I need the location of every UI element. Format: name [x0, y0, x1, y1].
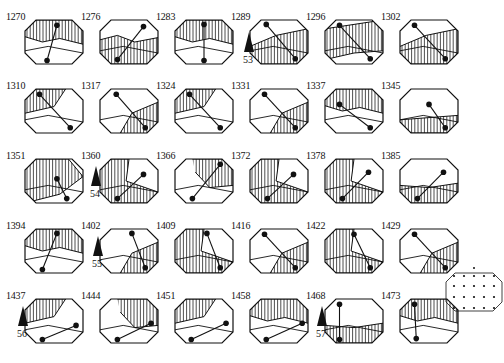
- electrode-grid-legend: [444, 265, 504, 315]
- octagon-map: [324, 158, 384, 204]
- marker-number: 55: [92, 258, 102, 269]
- frame-diagram: 1451: [172, 293, 242, 353]
- octagon-map: [99, 19, 159, 65]
- frame-label: 1289: [231, 12, 250, 22]
- frame-label: 1360: [81, 151, 100, 161]
- frame-label: 1276: [81, 12, 100, 22]
- stimulus-marker: 57: [316, 306, 332, 340]
- frame-label: 1372: [231, 151, 250, 161]
- marker-number: 54: [90, 188, 100, 199]
- frame-label: 1444: [81, 291, 100, 301]
- frame-diagram: 1345: [397, 83, 467, 143]
- stimulus-marker: 56: [17, 306, 33, 340]
- marker-number: 56: [17, 328, 27, 339]
- frame-label: 1317: [81, 81, 100, 91]
- marker-number: 57: [316, 328, 326, 339]
- frame-diagram: 1296: [322, 14, 392, 74]
- frame-diagram: 1385: [397, 153, 467, 213]
- frame-label: 1366: [156, 151, 175, 161]
- frame-diagram: 1302: [397, 14, 467, 74]
- triangle-icon: [244, 32, 254, 52]
- octagon-map: [249, 88, 309, 134]
- frame-diagram: 1444: [97, 293, 167, 353]
- octagon-map: [174, 228, 234, 274]
- octagon-map: [24, 158, 84, 204]
- frame-diagram: 1324: [172, 83, 242, 143]
- frame-label: 1331: [231, 81, 250, 91]
- frame-label: 1402: [81, 221, 100, 231]
- frame-label: 1324: [156, 81, 175, 91]
- frame-diagram: 1372: [247, 153, 317, 213]
- frame-diagram: 1283: [172, 14, 242, 74]
- frame-label: 1394: [6, 221, 25, 231]
- frame-label: 1378: [306, 151, 325, 161]
- octagon-map: [24, 19, 84, 65]
- octagon-map: [24, 228, 84, 274]
- octagon-map: [24, 298, 84, 344]
- frame-diagram: 1378: [322, 153, 392, 213]
- triangle-icon: [18, 306, 28, 326]
- octagon-map: [324, 228, 384, 274]
- frame-label: 1458: [231, 291, 250, 301]
- octagon-map: [324, 88, 384, 134]
- frame-diagram: 1416: [247, 223, 317, 283]
- frame-diagram: 1351: [22, 153, 92, 213]
- triangle-icon: [93, 236, 103, 256]
- frame-label: 1429: [381, 221, 400, 231]
- frame-label: 1409: [156, 221, 175, 231]
- frame-label: 1437: [6, 291, 25, 301]
- stimulus-marker: 54: [90, 166, 106, 200]
- marker-number: 53: [243, 54, 253, 65]
- frame-diagram: 1310: [22, 83, 92, 143]
- frame-diagram: 1394: [22, 223, 92, 283]
- frame-label: 1385: [381, 151, 400, 161]
- octagon-map: [249, 158, 309, 204]
- octagon-map: [324, 298, 384, 344]
- frame-diagram: 1360: [97, 153, 167, 213]
- frame-label: 1283: [156, 12, 175, 22]
- frame-label: 1416: [231, 221, 250, 231]
- frame-diagram: 1409: [172, 223, 242, 283]
- frame-diagram: 1468: [322, 293, 392, 353]
- frame-diagram: 1331: [247, 83, 317, 143]
- frame-label: 1345: [381, 81, 400, 91]
- frame-label: 1337: [306, 81, 325, 91]
- octagon-map: [24, 88, 84, 134]
- octagon-map: [324, 19, 384, 65]
- stimulus-marker: 53: [243, 32, 259, 66]
- frame-label: 1296: [306, 12, 325, 22]
- octagon-map: [249, 228, 309, 274]
- frame-diagram: 1270: [22, 14, 92, 74]
- stimulus-marker: 55: [92, 236, 108, 270]
- octagon-map: [399, 19, 459, 65]
- triangle-icon: [317, 306, 327, 326]
- octagon-map: [174, 158, 234, 204]
- octagon-map: [99, 228, 159, 274]
- frame-diagram: 1422: [322, 223, 392, 283]
- octagon-map: [174, 19, 234, 65]
- octagon-map: [399, 88, 459, 134]
- frame-label: 1302: [381, 12, 400, 22]
- frame-label: 1270: [6, 12, 25, 22]
- triangle-icon: [91, 166, 101, 186]
- frame-label: 1468: [306, 291, 325, 301]
- octagon-map: [174, 298, 234, 344]
- octagon-map: [99, 298, 159, 344]
- octagon-map: [99, 88, 159, 134]
- frame-diagram: 1458: [247, 293, 317, 353]
- frame-label: 1422: [306, 221, 325, 231]
- octagon-map: [99, 158, 159, 204]
- frame-label: 1473: [381, 291, 400, 301]
- frame-diagram: 1337: [322, 83, 392, 143]
- frame-diagram: 1366: [172, 153, 242, 213]
- frame-label: 1451: [156, 291, 175, 301]
- frame-diagram: 1317: [97, 83, 167, 143]
- octagon-map: [174, 88, 234, 134]
- octagon-map: [249, 298, 309, 344]
- frame-label: 1310: [6, 81, 25, 91]
- octagon-map: [399, 158, 459, 204]
- frame-diagram: 1276: [97, 14, 167, 74]
- frame-label: 1351: [6, 151, 25, 161]
